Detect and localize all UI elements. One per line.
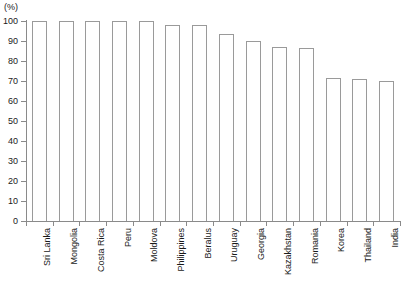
x-tick-mark <box>26 222 27 226</box>
y-tick-label: 80 <box>8 57 18 66</box>
bars-group <box>26 21 400 221</box>
x-tick-label-wrapper: Georgia <box>257 228 266 260</box>
bar <box>352 79 367 221</box>
x-tick-label: Moldova <box>150 228 159 262</box>
x-tick-label-wrapper: Sri Lanka <box>43 228 52 266</box>
x-tick-label-wrapper: Kazakhstan <box>284 228 293 275</box>
x-tick-mark <box>347 222 348 226</box>
x-tick-mark <box>53 222 54 226</box>
y-tick-label: 100 <box>3 17 18 26</box>
y-tick-label: 90 <box>8 37 18 46</box>
bar <box>219 34 234 221</box>
bar <box>379 81 394 221</box>
x-tick-label: Philippines <box>177 228 186 272</box>
x-tick-label: Peru <box>124 228 133 247</box>
x-tick-label: Thailand <box>364 228 373 263</box>
y-axis-unit-label: (%) <box>4 2 18 13</box>
x-tick-label: Sri Lanka <box>43 228 52 266</box>
x-tick-mark <box>400 222 401 226</box>
y-tick-label: 40 <box>8 137 18 146</box>
x-tick-label: Romania <box>311 228 320 264</box>
x-tick-mark <box>160 222 161 226</box>
bar <box>246 41 261 221</box>
x-tick-mark <box>213 222 214 226</box>
y-tick-label: 70 <box>8 77 18 86</box>
x-tick-label: Costa Rica <box>97 228 106 272</box>
bar <box>139 21 154 221</box>
x-tick-label-wrapper: Romania <box>311 228 320 264</box>
x-tick-label: Uruguay <box>230 228 239 262</box>
y-tick-label: 20 <box>8 177 18 186</box>
y-tick-label: 60 <box>8 97 18 106</box>
x-tick-label-wrapper: Peru <box>124 228 133 247</box>
x-tick-mark <box>133 222 134 226</box>
x-tick-label: India <box>391 228 400 248</box>
x-tick-label-wrapper: Thailand <box>364 228 373 263</box>
x-tick-label-wrapper: Beralus <box>204 228 213 259</box>
x-tick-mark <box>79 222 80 226</box>
x-tick-label-wrapper: Moldova <box>150 228 159 262</box>
y-tick-label: 50 <box>8 117 18 126</box>
y-tick-label: 30 <box>8 157 18 166</box>
x-tick-mark <box>106 222 107 226</box>
bar <box>32 21 47 221</box>
x-tick-mark <box>266 222 267 226</box>
x-tick-label: Mongolia <box>70 228 79 265</box>
bar <box>85 21 100 221</box>
x-tick-mark <box>293 222 294 226</box>
y-tick-label: 0 <box>13 217 18 226</box>
x-tick-label-wrapper: Philippines <box>177 228 186 272</box>
x-tick-label: Georgia <box>257 228 266 260</box>
x-tick-label-wrapper: Korea <box>337 228 346 252</box>
x-axis-labels: Sri LankaMongoliaCosta RicaPeruMoldovaPh… <box>26 228 400 286</box>
bar <box>272 47 287 221</box>
x-tick-label-wrapper: Mongolia <box>70 228 79 265</box>
y-tick-label: 10 <box>8 197 18 206</box>
bar-chart: (%) 0102030405060708090100 Sri LankaMong… <box>0 0 420 286</box>
x-tick-label-wrapper: Uruguay <box>230 228 239 262</box>
bar <box>165 25 180 221</box>
x-tick-mark <box>186 222 187 226</box>
x-tick-label: Kazakhstan <box>284 228 293 275</box>
x-tick-label: Korea <box>337 228 346 252</box>
x-tick-mark <box>320 222 321 226</box>
bar <box>326 78 341 221</box>
x-tick-label-wrapper: India <box>391 228 400 248</box>
x-tick-label-wrapper: Costa Rica <box>97 228 106 272</box>
x-tick-mark <box>240 222 241 226</box>
x-tick-label: Beralus <box>204 228 213 259</box>
bar <box>192 25 207 221</box>
bar <box>299 48 314 221</box>
bar <box>59 21 74 221</box>
bar <box>112 21 127 221</box>
x-tick-mark <box>373 222 374 226</box>
